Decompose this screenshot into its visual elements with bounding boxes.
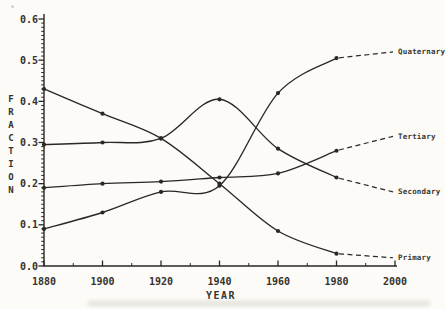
series-primary [42, 87, 393, 258]
data-point-marker [159, 136, 163, 140]
x-tick-label: 2000 [383, 276, 407, 287]
data-point-marker [217, 97, 221, 101]
x-tick-label: 1920 [149, 276, 173, 287]
x-tick-label: 1940 [207, 276, 231, 287]
y-axis-ticks: 0.00.10.20.30.40.50.6 [20, 14, 44, 272]
data-point-marker [334, 175, 338, 179]
data-point-marker [100, 182, 104, 186]
y-axis-title: FRACTION [6, 94, 16, 198]
x-tick-label: 1960 [266, 276, 290, 287]
y-tick-label: 0.0 [20, 261, 38, 272]
y-tick-label: 0.5 [20, 55, 38, 66]
y-tick-label: 0.2 [20, 178, 38, 189]
series-label-quaternary: Quaternary [398, 47, 445, 56]
data-point-marker [42, 227, 46, 231]
data-point-marker [42, 142, 46, 146]
data-point-marker [42, 87, 46, 91]
x-tick-label: 1980 [324, 276, 348, 287]
data-point-marker [276, 171, 280, 175]
data-point-marker [100, 210, 104, 214]
y-tick-label: 0.3 [20, 137, 38, 148]
y-tick-label: 0.1 [20, 219, 38, 230]
series-label-secondary: Secondary [398, 187, 440, 196]
data-point-marker [276, 91, 280, 95]
data-point-marker [100, 140, 104, 144]
data-point-marker [217, 175, 221, 179]
x-axis-ticks: 1880190019201940196019802000 [32, 261, 407, 288]
data-point-marker [100, 112, 104, 116]
data-point-marker [276, 147, 280, 151]
series-quaternary [42, 52, 393, 231]
data-point-marker [334, 56, 338, 60]
data-point-marker [159, 190, 163, 194]
x-tick-label: 1880 [32, 276, 56, 287]
scan-artifact-smudge [88, 301, 430, 306]
x-axis-title: YEAR [206, 290, 236, 301]
data-point-marker [217, 182, 221, 186]
data-point-marker [276, 229, 280, 233]
x-tick-label: 1900 [90, 276, 114, 287]
y-tick-label: 0.4 [20, 96, 38, 107]
data-point-marker [334, 149, 338, 153]
data-point-marker [159, 180, 163, 184]
axes [44, 14, 397, 266]
data-point-marker [334, 252, 338, 256]
data-point-marker [42, 186, 46, 190]
series-label-primary: Primary [398, 253, 431, 262]
series-label-tertiary: Tertiary [398, 132, 436, 141]
y-tick-label: 0.6 [20, 14, 38, 25]
